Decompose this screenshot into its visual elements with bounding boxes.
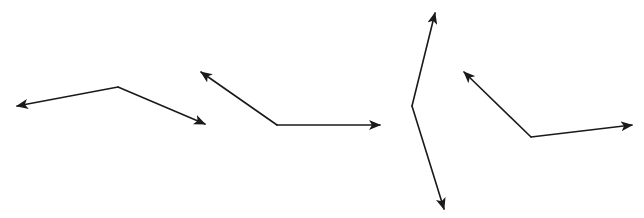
angle-2 <box>201 72 380 125</box>
ray-arrow-icon <box>531 125 632 137</box>
angle-3 <box>412 13 444 209</box>
angle-4 <box>464 72 632 137</box>
ray-arrow-icon <box>412 13 435 106</box>
ray-arrow-icon <box>201 72 277 125</box>
ray-arrow-icon <box>17 87 118 106</box>
ray-arrow-icon <box>118 87 205 124</box>
angles-diagram <box>0 0 644 218</box>
ray-arrow-icon <box>464 72 531 137</box>
ray-arrow-icon <box>412 106 444 209</box>
angle-1 <box>17 87 205 124</box>
